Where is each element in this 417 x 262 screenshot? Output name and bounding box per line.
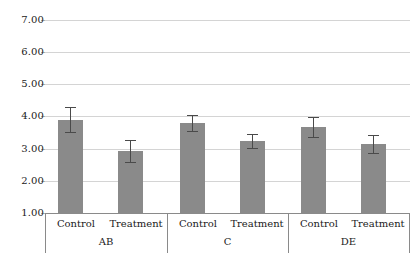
- error-cap-lower-ab-control: [65, 132, 76, 133]
- ytick-label-7: 7.00: [0, 15, 44, 25]
- error-cap-upper-de-treatment: [368, 135, 379, 136]
- label-table-top-rule: [45, 213, 410, 214]
- category-label-c-control: Control: [168, 218, 228, 230]
- category-label-de-treatment: Treatment: [347, 218, 409, 230]
- gridline-2: [45, 181, 410, 182]
- error-cap-lower-de-treatment: [368, 153, 379, 154]
- error-bar-ab-control: [70, 107, 71, 131]
- gridline-3: [45, 149, 410, 150]
- error-cap-upper-c-control: [187, 115, 198, 116]
- ytick-label-3: 3.00: [0, 144, 44, 154]
- error-cap-lower-c-treatment: [247, 148, 258, 149]
- error-cap-upper-de-control: [308, 117, 319, 118]
- group-label-c: C: [167, 236, 288, 248]
- bar-ab-control: [58, 120, 83, 213]
- category-label-c-treatment: Treatment: [226, 218, 288, 230]
- error-bar-c-treatment: [252, 134, 253, 148]
- error-bar-c-control: [192, 115, 193, 131]
- error-bar-de-treatment: [373, 135, 374, 153]
- ytick-label-5: 5.00: [0, 79, 44, 89]
- category-label-de-control: Control: [289, 218, 349, 230]
- bar-c-control: [180, 123, 205, 213]
- bar-c-treatment: [240, 141, 265, 213]
- error-cap-upper-ab-treatment: [125, 140, 136, 141]
- category-label-ab-treatment: Treatment: [105, 218, 167, 230]
- gridline-5: [45, 84, 410, 85]
- bar-de-treatment: [361, 144, 386, 213]
- ytick-label-4: 4.00: [0, 111, 44, 121]
- ytick-label-1: 1.00: [0, 208, 44, 218]
- ytick-label-6: 6.00: [0, 47, 44, 57]
- group-label-ab: AB: [45, 236, 167, 248]
- error-cap-upper-ab-control: [65, 107, 76, 108]
- bar-chart: 7.00 6.00 5.00 4.00 3.00 2.00 1.00 Contr…: [0, 0, 417, 262]
- bar-de-control: [301, 127, 326, 213]
- error-bar-de-control: [313, 117, 314, 136]
- group-separator-right: [409, 213, 410, 253]
- error-cap-lower-c-control: [187, 131, 198, 132]
- gridline-6: [45, 52, 410, 53]
- gridline-4: [45, 116, 410, 117]
- group-label-de: DE: [288, 236, 409, 248]
- error-cap-upper-c-treatment: [247, 134, 258, 135]
- gridline-7: [45, 20, 410, 21]
- error-cap-lower-de-control: [308, 137, 319, 138]
- error-bar-ab-treatment: [130, 140, 131, 163]
- category-label-ab-control: Control: [46, 218, 106, 230]
- ytick-label-2: 2.00: [0, 176, 44, 186]
- error-cap-lower-ab-treatment: [125, 162, 136, 163]
